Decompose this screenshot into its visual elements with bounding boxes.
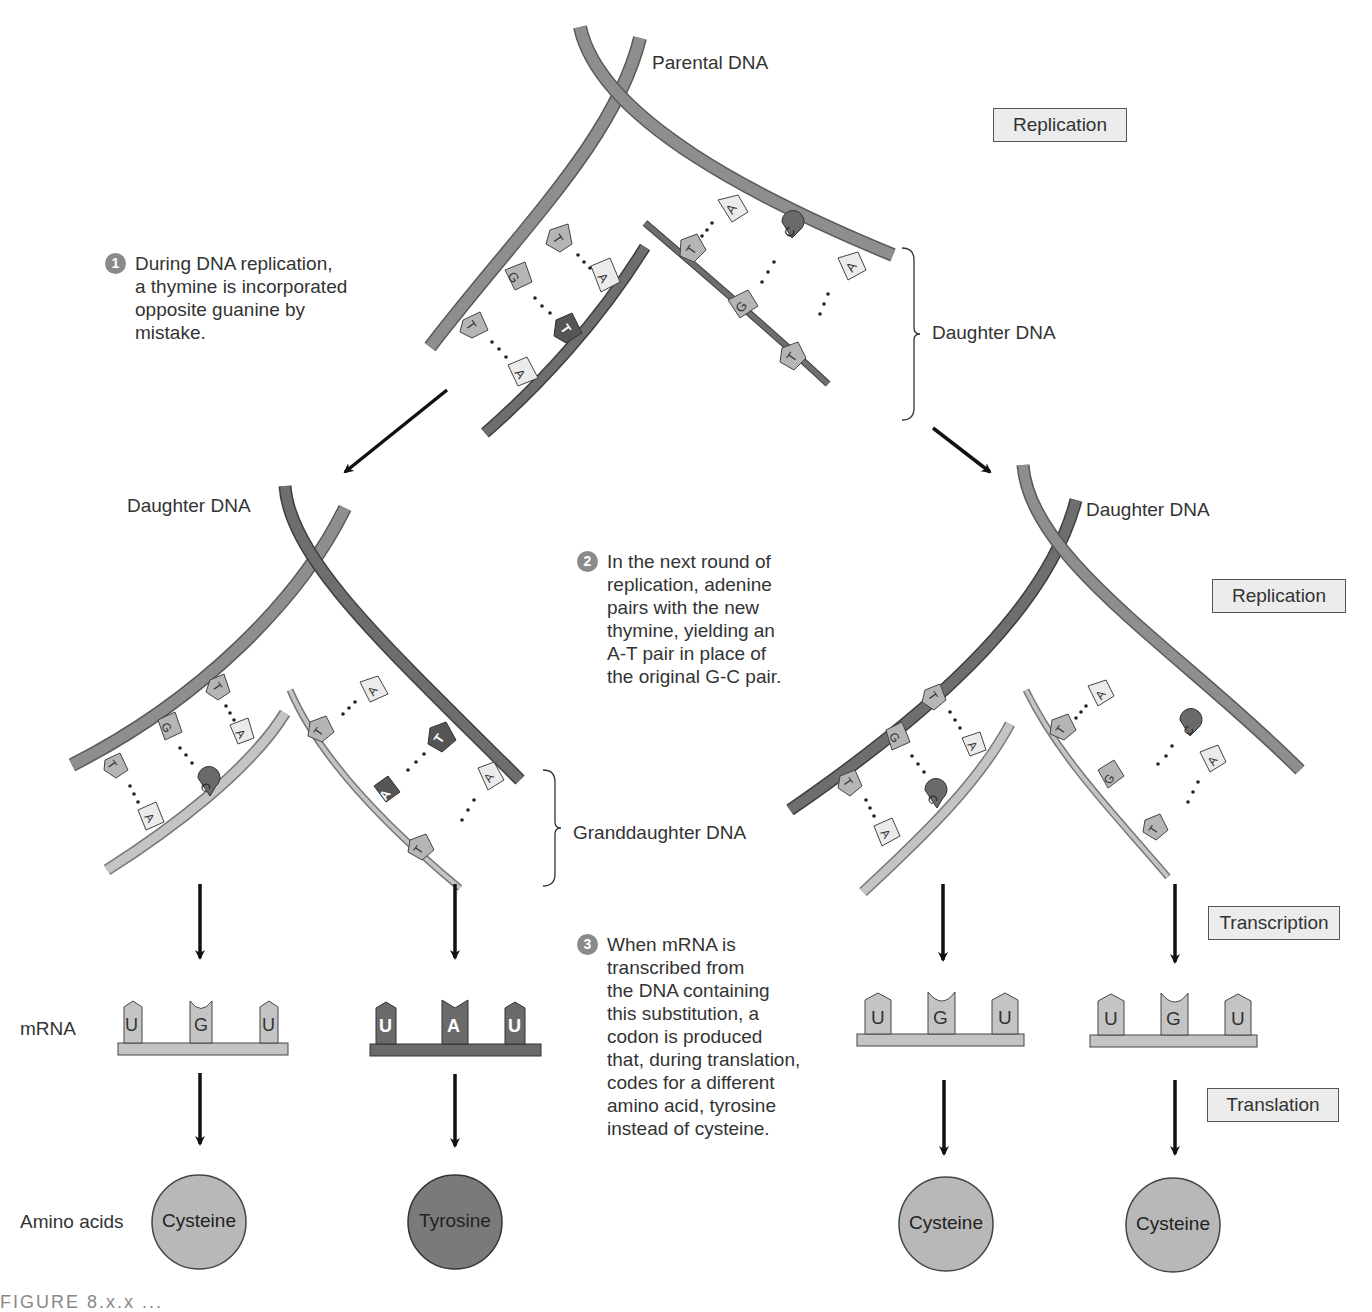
step-1-text: During DNA replication, a thymine is inc… <box>135 252 405 344</box>
replication-box-right: Replication <box>1212 579 1346 613</box>
step-3-text: When mRNA is transcribed from the DNA co… <box>607 933 857 1140</box>
label-daughter-dna-top: Daughter DNA <box>932 322 1056 344</box>
label-daughter-dna-right: Daughter DNA <box>1086 499 1210 521</box>
parental-dna-fork: T G T A T A A C A T G <box>430 27 920 433</box>
translation-box: Translation <box>1207 1088 1339 1122</box>
codon-4-base-2: G <box>1166 1008 1181 1030</box>
codon-1-base-3: U <box>262 1015 275 1036</box>
right-fork: T G T A C A A C A T G T <box>790 465 1300 892</box>
codon-1-base-1: U <box>125 1015 138 1036</box>
codon-2-base-2: A <box>447 1016 460 1037</box>
label-amino-acids: Amino acids <box>20 1211 124 1233</box>
codon-3-base-3: U <box>998 1007 1012 1029</box>
label-granddaughter-dna: Granddaughter DNA <box>573 822 746 844</box>
label-parental-dna: Parental DNA <box>652 52 768 74</box>
base-pairs-top-right: A C A T G T <box>680 195 866 370</box>
brace-daughter-dna <box>902 248 920 420</box>
codon-4-base-3: U <box>1231 1008 1245 1030</box>
arrow-to-left-fork <box>345 390 447 472</box>
figure-caption-partial: FIGURE 8.x.x ... <box>0 1292 163 1312</box>
codon-4-base-1: U <box>1104 1008 1118 1030</box>
amino-acid-label-4: Cysteine <box>1126 1213 1220 1235</box>
codon-3-base-2: G <box>933 1007 948 1029</box>
left-fork: T G T A C A A T A T A T <box>72 486 561 888</box>
transcription-box: Transcription <box>1208 906 1340 940</box>
arrow-to-right-fork <box>933 428 990 472</box>
label-daughter-dna-left: Daughter DNA <box>127 495 251 517</box>
step-1: 1 During DNA replication, a thymine is i… <box>105 252 405 344</box>
amino-acid-label-3: Cysteine <box>899 1212 993 1234</box>
step-3-badge: 3 <box>577 934 598 955</box>
step-2: 2 In the next round of replication, aden… <box>577 550 837 688</box>
amino-acid-label-1: Cysteine <box>152 1210 246 1232</box>
label-mrna: mRNA <box>20 1018 76 1040</box>
amino-acid-label-2: Tyrosine <box>408 1210 502 1232</box>
codon-1-base-2: G <box>194 1015 208 1036</box>
step-2-text: In the next round of replication, adenin… <box>607 550 837 688</box>
step-2-badge: 2 <box>577 551 598 572</box>
codon-2-base-3: U <box>508 1016 521 1037</box>
base-pairs-top-left: T G T A T A <box>460 224 620 386</box>
step-3: 3 When mRNA is transcribed from the DNA … <box>577 933 857 1140</box>
codon-3-base-1: U <box>871 1007 885 1029</box>
brace-granddaughter-dna <box>543 770 561 886</box>
codon-2-base-1: U <box>379 1016 392 1037</box>
step-1-badge: 1 <box>105 253 126 274</box>
replication-box-top: Replication <box>993 108 1127 142</box>
